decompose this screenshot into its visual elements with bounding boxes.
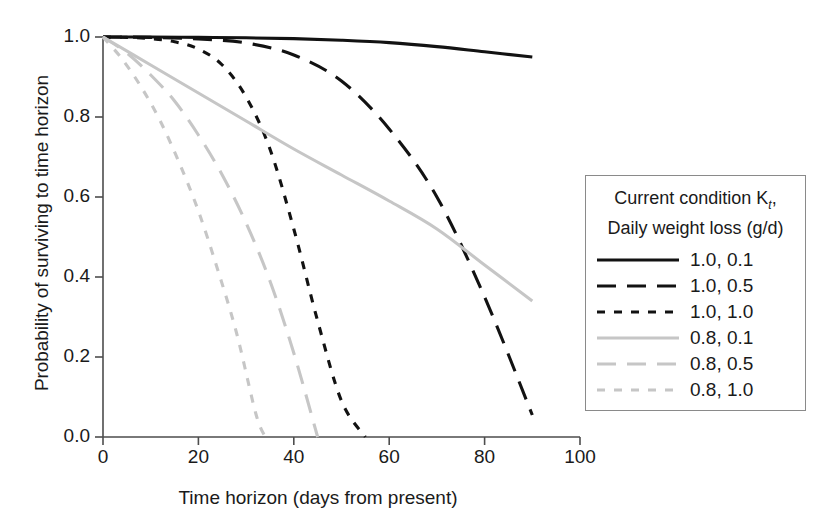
- legend-item-1.0-0.5[interactable]: 1.0, 0.5: [586, 273, 805, 299]
- series-line-0.8-1.0: [103, 37, 265, 437]
- legend-line-sample-icon: [595, 380, 681, 400]
- legend-item-0.8-0.1[interactable]: 0.8, 0.1: [586, 325, 805, 351]
- legend-title-line-2: Daily weight loss (g/d): [586, 217, 805, 240]
- x-tick-label-100: 100: [557, 446, 603, 468]
- legend-item-1.0-1.0[interactable]: 1.0, 1.0: [586, 299, 805, 325]
- legend-item-1.0-0.1[interactable]: 1.0, 0.1: [586, 247, 805, 273]
- legend-line-sample-icon: [595, 250, 681, 270]
- legend-title-line-1: Current condition Kt,: [586, 187, 805, 217]
- x-tick-label-60: 60: [366, 446, 412, 468]
- tick-marks: [95, 37, 580, 445]
- series-line-0.8-0.1: [103, 37, 532, 301]
- series-line-1.0-0.5: [103, 37, 532, 415]
- x-tick-label-20: 20: [175, 446, 221, 468]
- legend-line-sample-icon: [595, 276, 681, 296]
- y-tick-label-1.0: 1.0: [40, 25, 90, 47]
- series-line-0.8-0.5: [103, 37, 318, 437]
- series-line-1.0-1.0: [103, 37, 365, 437]
- legend-line-sample-icon: [595, 302, 681, 322]
- x-tick-label-40: 40: [271, 446, 317, 468]
- axis-lines: [103, 37, 580, 437]
- legend-item-0.8-1.0[interactable]: 0.8, 1.0: [586, 377, 805, 403]
- y-tick-label-0.0: 0.0: [40, 425, 90, 447]
- legend-item-label: 0.8, 0.5: [690, 353, 753, 375]
- y-tick-label-0.6: 0.6: [40, 185, 90, 207]
- legend-item-label: 1.0, 0.1: [690, 249, 753, 271]
- legend-line-sample-icon: [595, 328, 681, 348]
- legend-item-label: 1.0, 1.0: [690, 301, 753, 323]
- legend-item-label: 0.8, 0.1: [690, 327, 753, 349]
- legend-title: Current condition Kt, Daily weight loss …: [586, 176, 805, 240]
- legend-item-0.8-0.5[interactable]: 0.8, 0.5: [586, 351, 805, 377]
- legend-entries: 1.0, 0.11.0, 0.51.0, 1.00.8, 0.10.8, 0.5…: [586, 247, 805, 403]
- series-line-1.0-0.1: [103, 37, 532, 57]
- legend-item-label: 0.8, 1.0: [690, 379, 753, 401]
- x-tick-label-80: 80: [462, 446, 508, 468]
- survival-curve-figure: Probability of surviving to time horizon…: [0, 0, 833, 525]
- data-series-group: [103, 37, 532, 437]
- y-tick-label-0.8: 0.8: [40, 105, 90, 127]
- legend: Current condition Kt, Daily weight loss …: [585, 175, 806, 411]
- y-tick-label-0.4: 0.4: [40, 265, 90, 287]
- x-axis-label: Time horizon (days from present): [103, 487, 533, 509]
- legend-line-sample-icon: [595, 354, 681, 374]
- legend-item-label: 1.0, 0.5: [690, 275, 753, 297]
- x-tick-label-0: 0: [80, 446, 126, 468]
- y-tick-label-0.2: 0.2: [40, 345, 90, 367]
